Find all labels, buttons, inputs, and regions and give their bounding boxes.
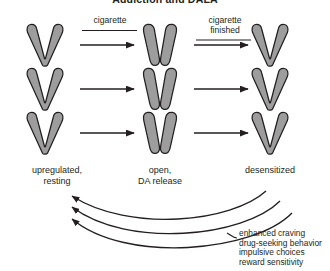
receptor-desensitized-row3 [252, 112, 288, 154]
receptor-column-upregulated [27, 24, 63, 154]
receptor-column-desensitized [252, 24, 288, 154]
feedback-arrows [72, 191, 292, 248]
receptor-desensitized-row2 [252, 68, 288, 110]
outcome-connector-line [227, 233, 237, 238]
receptor-open-row2 [143, 68, 176, 109]
receptor-column-open [143, 24, 176, 153]
transition-arrows-stage1 [80, 45, 134, 133]
curved-arrow-left-icon-2 [72, 201, 280, 234]
receptor-desensitized-row1 [252, 24, 288, 66]
receptor-closed-row3 [27, 112, 63, 154]
receptor-closed-row1 [27, 24, 63, 66]
vector-graphics-layer [0, 0, 330, 271]
curved-arrow-left-icon-1 [72, 191, 266, 219]
transition-arrows-stage2 [194, 45, 248, 133]
receptor-open-row1 [143, 24, 176, 65]
receptor-closed-row2 [27, 68, 63, 110]
diagram-canvas: Addiction and DALA cigarette cigarette f… [0, 0, 330, 271]
receptor-open-row3 [143, 112, 176, 153]
